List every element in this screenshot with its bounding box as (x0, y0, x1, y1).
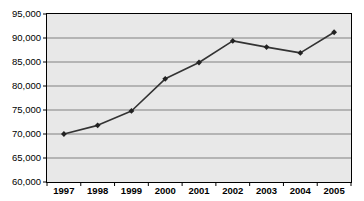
x-axis-tick-label: 2001 (188, 186, 209, 196)
x-axis-tick-label: 2002 (222, 186, 243, 196)
x-axis-tick-label: 1999 (121, 186, 142, 196)
x-axis-tick-label: 2003 (256, 186, 277, 196)
x-axis-tick-label: 2000 (155, 186, 176, 196)
x-axis-tick-label: 1997 (53, 186, 74, 196)
line-chart: 95,00090,00085,00080,00075,00070,00065,0… (0, 0, 364, 201)
x-axis-tick-label: 2005 (324, 186, 345, 196)
x-axis-tick-label: 2004 (290, 186, 311, 196)
x-axis-tick-label: 1998 (87, 186, 108, 196)
x-axis: 199719981999200020012002200320042005 (0, 0, 364, 201)
